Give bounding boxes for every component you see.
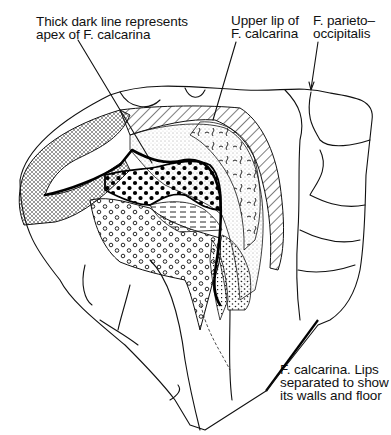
sulcus [300, 230, 360, 242]
sulcus [120, 88, 205, 107]
sulcus [285, 90, 302, 320]
brain-drawing [0, 0, 391, 435]
sulcus [230, 310, 233, 400]
sulcus [310, 150, 365, 206]
sulcus [83, 265, 130, 330]
sulcus [298, 265, 355, 272]
